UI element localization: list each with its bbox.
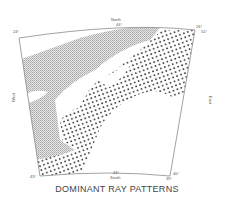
west-label: West (12, 93, 16, 102)
map-title: DOMINANT RAY PATTERNS (0, 184, 234, 194)
corner-label-top-left: 24° (13, 30, 19, 34)
south-label: South (110, 176, 120, 180)
corner-label-top-center: 44° (116, 23, 122, 27)
corner-label-bottom-right: 40° (173, 172, 179, 176)
corner-label-bottom-left: 43° (30, 175, 36, 179)
east-label: East (208, 96, 212, 104)
corner-label-right-top: 51° (201, 30, 207, 34)
corner-label-bottom-right-lower: 39° (166, 177, 172, 181)
